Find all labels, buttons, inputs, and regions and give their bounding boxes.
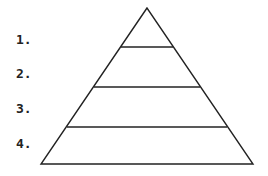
pyramid-outline [41, 8, 253, 164]
pyramid-diagram [0, 0, 268, 176]
